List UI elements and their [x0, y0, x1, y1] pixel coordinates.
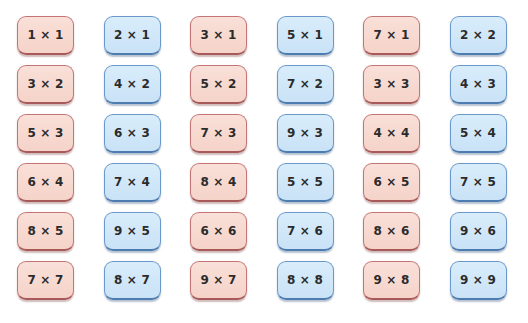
card-9x8[interactable]: 9 × 8 [363, 261, 420, 300]
card-1x1[interactable]: 1 × 1 [17, 16, 74, 55]
card-6x4[interactable]: 6 × 4 [17, 163, 74, 202]
card-9x6[interactable]: 9 × 6 [450, 212, 507, 251]
card-5x2[interactable]: 5 × 2 [190, 65, 247, 104]
card-6x5[interactable]: 6 × 5 [363, 163, 420, 202]
card-5x3[interactable]: 5 × 3 [17, 114, 74, 153]
card-7x6[interactable]: 7 × 6 [277, 212, 334, 251]
card-2x1[interactable]: 2 × 1 [104, 16, 161, 55]
card-7x7[interactable]: 7 × 7 [17, 261, 74, 300]
card-9x3[interactable]: 9 × 3 [277, 114, 334, 153]
card-7x3[interactable]: 7 × 3 [190, 114, 247, 153]
card-8x8[interactable]: 8 × 8 [277, 261, 334, 300]
card-3x1[interactable]: 3 × 1 [190, 16, 247, 55]
card-7x2[interactable]: 7 × 2 [277, 65, 334, 104]
card-8x7[interactable]: 8 × 7 [104, 261, 161, 300]
card-9x9[interactable]: 9 × 9 [450, 261, 507, 300]
card-7x5[interactable]: 7 × 5 [450, 163, 507, 202]
card-6x6[interactable]: 6 × 6 [190, 212, 247, 251]
card-9x7[interactable]: 9 × 7 [190, 261, 247, 300]
card-8x4[interactable]: 8 × 4 [190, 163, 247, 202]
card-5x4[interactable]: 5 × 4 [450, 114, 507, 153]
card-3x3[interactable]: 3 × 3 [363, 65, 420, 104]
card-2x2[interactable]: 2 × 2 [450, 16, 507, 55]
card-4x3[interactable]: 4 × 3 [450, 65, 507, 104]
card-5x1[interactable]: 5 × 1 [277, 16, 334, 55]
card-5x5[interactable]: 5 × 5 [277, 163, 334, 202]
card-6x3[interactable]: 6 × 3 [104, 114, 161, 153]
multiplication-card-grid: 1 × 1 2 × 1 3 × 1 5 × 1 7 × 1 2 × 2 3 × … [17, 16, 507, 300]
card-3x2[interactable]: 3 × 2 [17, 65, 74, 104]
card-9x5[interactable]: 9 × 5 [104, 212, 161, 251]
card-7x4[interactable]: 7 × 4 [104, 163, 161, 202]
card-8x5[interactable]: 8 × 5 [17, 212, 74, 251]
card-4x4[interactable]: 4 × 4 [363, 114, 420, 153]
card-4x2[interactable]: 4 × 2 [104, 65, 161, 104]
card-7x1[interactable]: 7 × 1 [363, 16, 420, 55]
card-8x6[interactable]: 8 × 6 [363, 212, 420, 251]
